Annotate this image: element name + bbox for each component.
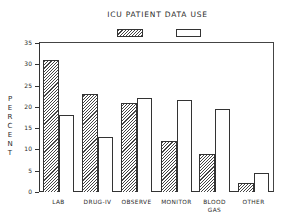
bar-hatched	[161, 141, 177, 192]
y-tick-label: 35	[18, 39, 32, 46]
x-tick-label: BLOODGAS	[193, 198, 236, 214]
y-axis-label: PERCENT	[6, 95, 14, 158]
x-tick-label: DRUG-IV	[76, 198, 119, 206]
bar-hatched	[82, 94, 98, 192]
y-tick-label: 10	[18, 145, 32, 152]
y-tick-label: 30	[18, 60, 32, 67]
bar-open	[215, 109, 231, 192]
y-tick-label: 5	[18, 167, 32, 174]
y-tick-label: 0	[18, 188, 32, 195]
x-tick-label: OBSERVE	[115, 198, 158, 206]
bar-hatched	[43, 60, 59, 192]
bar-open	[98, 137, 114, 192]
bar-open	[137, 98, 153, 192]
y-tick-label: 20	[18, 103, 32, 110]
bar-open	[254, 173, 270, 192]
legend-swatch-open	[176, 29, 201, 37]
chart-title: ICU PATIENT DATA USE	[14, 10, 287, 19]
bar-hatched	[238, 183, 254, 192]
plot-frame	[39, 42, 274, 192]
legend-swatch-hatched	[117, 29, 143, 37]
x-tick-label: OTHER	[232, 198, 275, 206]
x-tick-label: MONITOR	[155, 198, 198, 206]
y-tick-mark	[35, 192, 39, 193]
y-tick-label: 15	[18, 124, 32, 131]
bar-open	[59, 115, 75, 192]
bar-hatched	[199, 154, 215, 192]
bar-open	[177, 100, 193, 192]
bar-hatched	[121, 103, 137, 192]
y-tick-label: 25	[18, 82, 32, 89]
x-tick-label: LAB	[37, 198, 80, 206]
